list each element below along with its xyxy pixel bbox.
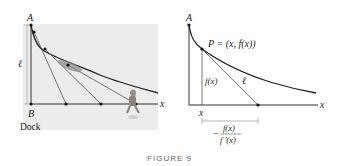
x-point-label: x <box>198 108 204 118</box>
point-a-label: A <box>26 12 34 23</box>
fraction-numerator: f(x) <box>223 123 235 133</box>
x-axis-label: x <box>319 99 325 110</box>
figure-9: A B ℓ x Dock A P = (x, f(x)) f(x) ℓ x x … <box>0 0 339 166</box>
point-a-label: A <box>185 12 193 23</box>
ell-label: ℓ <box>242 75 246 86</box>
point-p-label: P = (x, f(x)) <box>207 38 256 50</box>
right-panel: A P = (x, f(x)) f(x) ℓ x x − f(x) f ′(x) <box>185 12 325 145</box>
figure-caption: FIGURE 9 <box>147 154 192 163</box>
left-panel: A B ℓ x Dock <box>18 12 165 132</box>
point-b-label: B <box>28 108 34 119</box>
fraction-sign: − <box>213 128 218 138</box>
fraction-denominator: f ′(x) <box>220 135 236 145</box>
ell-label: ℓ <box>18 58 22 69</box>
x-axis-label: x <box>159 98 165 109</box>
fx-label: f(x) <box>205 76 218 86</box>
point-p <box>200 47 203 50</box>
dock-label: Dock <box>20 122 41 132</box>
left-panel-background <box>23 24 158 130</box>
